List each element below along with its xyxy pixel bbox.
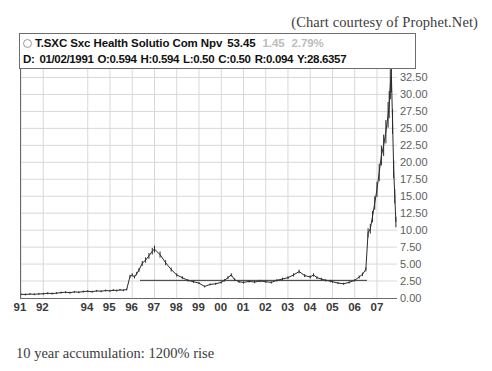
quote-header-panel: T.SXC Sxc Health Solutio Com Npv 53.45 1… [19, 33, 416, 69]
x-axis-tick: 98 [170, 301, 183, 313]
x-axis-tick: 95 [103, 301, 116, 313]
y-axis-tick: 32.50 [400, 72, 428, 83]
y-axis-tick: 15.00 [400, 191, 428, 202]
y-axis-tick: 10.00 [400, 225, 428, 236]
x-axis-tick: 00 [214, 301, 227, 313]
quote-ohlc-row: D: 01/02/1991 O:0.594 H:0.594 L:0.50 C:0… [23, 51, 415, 67]
chart-caption: 10 year accumulation: 1200% rise [16, 345, 214, 362]
x-axis-labels: 91929495969798990001020304050607 [20, 300, 397, 318]
y-axis-tick: 2.50 [400, 276, 421, 287]
y-axis-tick: 0.00 [400, 293, 421, 304]
ohlc-high: H:0.594 [141, 51, 179, 67]
grid-lines [21, 69, 397, 298]
x-axis-tick: 04 [304, 301, 317, 313]
y-axis-tick: 30.00 [400, 89, 428, 100]
ohlc-low: L:0.50 [183, 51, 214, 67]
x-axis-tick: 07 [371, 301, 384, 313]
ohlc-date-value: 01/02/1991 [39, 51, 93, 67]
x-axis-tick: 99 [192, 301, 205, 313]
y-axis-tick: 17.50 [400, 174, 428, 185]
price-series-line [21, 69, 396, 295]
y-axis-labels: 32.5030.0027.5025.0022.5020.0017.5015.00… [400, 69, 450, 299]
y-axis-tick: 12.50 [400, 208, 428, 219]
price-series-svg [21, 69, 397, 298]
quote-last-price: 53.45 [227, 35, 255, 51]
ohlc-range: R:0.094 [255, 51, 293, 67]
y-axis-tick: 7.50 [400, 242, 421, 253]
y-axis-tick: 25.00 [400, 123, 428, 134]
quote-change-percent: 2.79% [291, 35, 323, 51]
quote-change: 1.45 [263, 35, 285, 51]
ohlc-close: C:0.50 [218, 51, 250, 67]
x-axis-tick: 94 [81, 301, 94, 313]
x-axis-tick: 06 [348, 301, 361, 313]
quote-symbol-name: T.SXC Sxc Health Solutio Com Npv [35, 35, 222, 51]
x-axis-tick: 02 [259, 301, 272, 313]
x-axis-tick: 97 [147, 301, 160, 313]
y-axis-tick: 22.50 [400, 140, 428, 151]
x-axis-tick: 91 [14, 301, 27, 313]
plot-region: 32.5030.0027.5025.0022.5020.0017.5015.00… [19, 69, 416, 319]
stock-chart-widget: T.SXC Sxc Health Solutio Com Npv 53.45 1… [19, 33, 416, 319]
x-axis-tick: 03 [281, 301, 294, 313]
ohlc-yield: Y:28.6357 [297, 51, 346, 67]
circle-indicator-icon [23, 39, 32, 48]
y-axis-tick: 20.00 [400, 157, 428, 168]
price-plot-area[interactable] [20, 69, 397, 299]
x-axis-tick: 96 [125, 301, 138, 313]
chart-courtesy-credit: (Chart courtesy of Prophet.Net) [0, 14, 478, 31]
ohlc-date-label: D: [23, 51, 34, 67]
y-axis-tick: 5.00 [400, 259, 421, 270]
x-axis-tick: 92 [36, 301, 49, 313]
x-axis-tick: 01 [237, 301, 250, 313]
y-axis-tick: 27.50 [400, 106, 428, 117]
quote-summary-row: T.SXC Sxc Health Solutio Com Npv 53.45 1… [23, 35, 415, 51]
x-axis-tick: 05 [326, 301, 339, 313]
ohlc-open: O:0.594 [98, 51, 137, 67]
